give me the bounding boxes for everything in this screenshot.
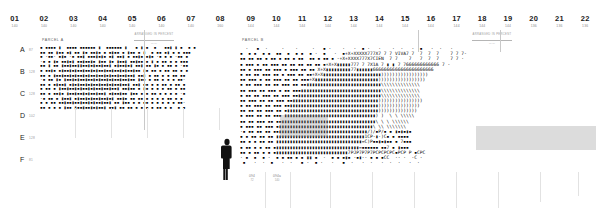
column-number: 16 <box>418 14 444 23</box>
guide-rule-b-right <box>500 30 501 52</box>
column-header-cell-08[interactable]: 08160 <box>206 14 235 38</box>
column-number: 08 <box>206 14 235 23</box>
column-number: 05 <box>118 14 147 23</box>
row-letter: F <box>20 156 29 164</box>
row-letter: B <box>20 68 29 76</box>
column-subvalue: 140 <box>147 23 176 29</box>
bottom-tick-value: 72 <box>240 178 264 182</box>
guide-rule-b8 <box>540 172 541 202</box>
column-number: 21 <box>547 14 573 23</box>
column-header-cell-21[interactable]: 21136 <box>547 14 573 38</box>
column-number: 10 <box>264 14 290 23</box>
guide-rule-b6 <box>456 172 457 208</box>
column-subvalue: 160 <box>206 23 235 29</box>
row-subvalue: 87 <box>29 46 33 54</box>
bottom-tick-094: 09472 <box>240 174 264 182</box>
column-subvalue: 136 <box>521 23 547 29</box>
column-number: 11 <box>289 14 315 23</box>
column-header-cell-13[interactable]: 13144 <box>341 14 367 38</box>
row-label-D[interactable]: D102 <box>20 112 35 134</box>
column-subvalue: 140 <box>59 23 88 29</box>
column-header-cell-20[interactable]: 20136 <box>521 14 547 38</box>
column-header-cell-22[interactable]: 22136 <box>572 14 598 38</box>
column-number: 22 <box>572 14 598 23</box>
column-subvalue: 140 <box>118 23 147 29</box>
column-header-cell-02[interactable]: 02140 <box>29 14 58 38</box>
dimension-note-a-value: — — <box>122 42 186 45</box>
column-header-a: 0114002140031400414005140061400714008160 <box>0 14 235 38</box>
row-label-B[interactable]: B128 <box>20 68 35 90</box>
texture-block-a: ▪ ▪▪▪▪ ▮ ▪▪▪▪ ▪▪▪▪▪▪ ▮ ▪▪▪▪▪▪ ▮ ▪ ▮ ▪ ▪ … <box>40 46 230 112</box>
guide-rule-b5 <box>414 172 415 208</box>
column-number: 20 <box>521 14 547 23</box>
column-header-cell-01[interactable]: 01140 <box>0 14 29 38</box>
column-header-cell-14[interactable]: 14144 <box>367 14 393 38</box>
column-header-cell-16[interactable]: 16144 <box>418 14 444 38</box>
row-labels-a: A87B128C128D102E128F81 <box>20 46 35 178</box>
guide-rule-b1 <box>265 172 266 208</box>
column-subvalue: 144 <box>469 23 495 29</box>
column-header-cell-10[interactable]: 10144 <box>264 14 290 38</box>
column-subvalue: 136 <box>572 23 598 29</box>
row-subvalue: 128 <box>29 134 35 142</box>
column-number: 02 <box>29 14 58 23</box>
dimension-note-b-arrow <box>460 38 524 42</box>
row-label-A[interactable]: A87 <box>20 46 35 68</box>
guide-rule-b9 <box>578 172 579 196</box>
column-number: 19 <box>495 14 521 23</box>
column-subvalue: 144 <box>238 23 264 29</box>
row-subvalue: 81 <box>29 156 33 164</box>
column-number: 07 <box>176 14 205 23</box>
row-label-F[interactable]: F81 <box>20 156 35 178</box>
bottom-tick-094a: 094a140 <box>265 174 289 182</box>
texture-row: ▪ · · ▪ · · ▪ · ▪ · · ▪ · · · · · · · · <box>240 160 596 165</box>
guide-rule-b7 <box>498 172 499 208</box>
column-number: 09 <box>238 14 264 23</box>
column-subvalue: 144 <box>495 23 521 29</box>
column-subvalue: 144 <box>418 23 444 29</box>
dimension-note-a: ARRANGED IN PERCENT — — <box>122 33 186 45</box>
column-number: 03 <box>59 14 88 23</box>
guide-rule-a1 <box>75 108 76 138</box>
column-header-cell-03[interactable]: 03140 <box>59 14 88 38</box>
column-header-cell-09[interactable]: 09144 <box>238 14 264 38</box>
column-header-cell-15[interactable]: 15144 <box>392 14 418 38</box>
guide-rule-b3 <box>330 172 331 208</box>
dimension-note-a-arrow <box>122 38 186 42</box>
dimension-note-b: ARRANGED IN PERCENT — — <box>460 33 524 45</box>
texture-row: ▪▪ ▪ ▪ ▪ ▮▪▪ ▮▪▪▮▪▪▮▪▮▪▪▮ ▪▪▮ ▪▪ ▪▪ ▪ ▪ … <box>40 106 230 111</box>
column-subvalue: 144 <box>341 23 367 29</box>
guide-rule-a3 <box>147 108 148 138</box>
column-number: 04 <box>88 14 117 23</box>
row-subvalue: 102 <box>29 112 35 120</box>
column-header-cell-12[interactable]: 12144 <box>315 14 341 38</box>
column-header-cell-04[interactable]: 04140 <box>88 14 117 38</box>
row-label-E[interactable]: E128 <box>20 134 35 156</box>
row-letter: D <box>20 112 29 120</box>
row-subvalue: 128 <box>29 68 35 76</box>
column-subvalue: 140 <box>88 23 117 29</box>
column-number: 12 <box>315 14 341 23</box>
column-subvalue: 140 <box>0 23 29 29</box>
column-subvalue: 144 <box>444 23 470 29</box>
column-number: 14 <box>367 14 393 23</box>
column-subvalue: 144 <box>367 23 393 29</box>
row-letter: E <box>20 134 29 142</box>
column-subvalue: 140 <box>29 23 58 29</box>
guide-rule-a-center <box>144 30 145 130</box>
column-subvalue: 144 <box>264 23 290 29</box>
panel-parcel-a: 0114002140031400414005140061400714008160… <box>0 0 235 210</box>
dimension-note-a-text: ARRANGED IN PERCENT <box>122 33 186 37</box>
column-number: 06 <box>147 14 176 23</box>
column-subvalue: 144 <box>392 23 418 29</box>
column-number: 13 <box>341 14 367 23</box>
column-number: 01 <box>0 14 29 23</box>
guide-rule-a2 <box>111 108 112 138</box>
column-number: 17 <box>444 14 470 23</box>
guide-rule-b-center <box>418 30 419 52</box>
texture-block-b: · ▪ · · · · ▪ · · · ▪ · · · · · ▪ · · ·▪… <box>240 46 596 170</box>
parcel-b-label: PARCEL B <box>242 38 264 42</box>
column-number: 18 <box>469 14 495 23</box>
row-label-C[interactable]: C128 <box>20 90 35 112</box>
column-header-cell-11[interactable]: 11144 <box>289 14 315 38</box>
